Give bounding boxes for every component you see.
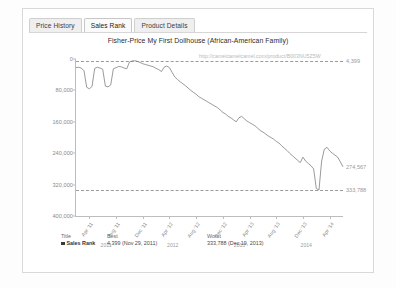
x-axis-tick-mark	[143, 216, 144, 219]
legend-header-row: Title Best Worst	[61, 233, 351, 240]
legend-header-worst: Worst	[207, 233, 327, 240]
series-canvas	[76, 59, 343, 216]
x-axis-tick-mark	[250, 216, 251, 219]
legend-row: Sales Rank 4,399 (Nov 29, 2011) 333,788 …	[61, 240, 351, 247]
tab-price-history[interactable]: Price History	[29, 18, 82, 32]
series-color-swatch	[61, 242, 65, 246]
legend-best-value: 4,399 (Nov 29, 2011)	[107, 240, 207, 247]
y-axis-tick-label: 320,000	[52, 182, 76, 188]
tab-sales-rank[interactable]: Sales Rank	[84, 18, 133, 32]
x-axis-tick-mark	[276, 216, 277, 219]
current-value-label: 274,567	[346, 164, 366, 170]
tab-product-details[interactable]: Product Details	[134, 18, 194, 32]
legend-header-best: Best	[107, 233, 207, 240]
chart-card: Fisher-Price My First Dollhouse (African…	[29, 33, 367, 270]
y-axis-tick-label: 160,000	[52, 119, 76, 125]
reference-line-label: 4,399	[346, 58, 360, 64]
camelcamelcamel-sales-rank-widget: Price History Sales Rank Product Details…	[0, 0, 396, 288]
chart-title: Fisher-Price My First Dollhouse (African…	[29, 37, 367, 44]
tab-bar: Price History Sales Rank Product Details	[29, 17, 197, 32]
sales-rank-line	[76, 61, 343, 190]
x-axis-tick-mark	[303, 216, 304, 219]
legend-table: Title Best Worst Sales Rank 4,399 (Nov 2…	[61, 233, 351, 247]
y-axis-tick-label: 80,000	[56, 87, 76, 93]
x-axis-tick-mark	[196, 216, 197, 219]
x-axis-tick-mark	[330, 216, 331, 219]
legend-series-name: Sales Rank	[67, 240, 96, 246]
reference-line-label: 333,788	[346, 187, 366, 193]
legend-series-name-cell: Sales Rank	[61, 240, 107, 247]
x-axis-tick-mark	[223, 216, 224, 219]
plot-area[interactable]: 080,000160,000240,000320,000400,000Apr '…	[75, 59, 343, 217]
y-axis-tick-label: 240,000	[52, 150, 76, 156]
x-axis-tick-mark	[116, 216, 117, 219]
x-axis-tick-mark	[89, 216, 90, 219]
y-axis-tick-label: 400,000	[52, 213, 76, 219]
x-axis-tick-mark	[169, 216, 170, 219]
legend-header-title: Title	[61, 233, 107, 240]
legend-worst-value: 333,788 (Dec 19, 2013)	[207, 240, 327, 247]
